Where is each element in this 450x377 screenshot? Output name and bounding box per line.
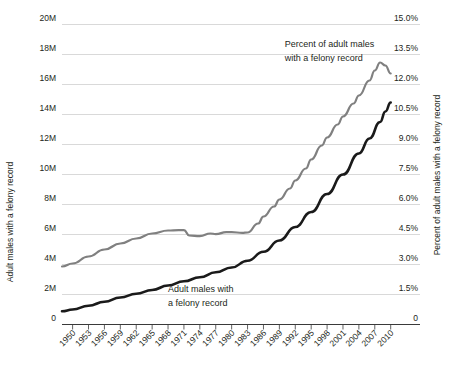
x-tick-label: 2001 <box>327 328 348 349</box>
right-tick-label: 15.0% <box>394 13 419 23</box>
x-tick-label: 1971 <box>168 328 189 349</box>
right-axis-title: Percent of adult males with a felony rec… <box>432 94 442 255</box>
left-tick-label: 8M <box>44 193 56 203</box>
x-tick-label: 1953 <box>73 328 94 349</box>
right-tick-label: 9.0% <box>399 133 419 143</box>
count-annotation-line1: Adult males with <box>168 284 234 294</box>
right-axis-tick-labels: 01.5%3.0%4.5%6.0%7.5%9.0%10.5%12.0%13.5%… <box>394 13 419 323</box>
x-tick-label: 2004 <box>343 328 364 349</box>
x-tick-label: 1959 <box>105 328 126 349</box>
x-tick-label: 1998 <box>312 328 333 349</box>
left-tick-label: 20M <box>39 13 56 23</box>
series-percent-line <box>62 63 391 267</box>
right-tick-label: 10.5% <box>394 103 419 113</box>
data-series-group <box>62 63 391 312</box>
left-tick-label: 14M <box>39 103 56 113</box>
percent-annotation-line1: Percent of adult males <box>285 39 375 49</box>
right-tick-label: 12.0% <box>394 73 419 83</box>
left-axis-title: Adult males with a felony record <box>5 161 15 282</box>
right-tick-label: 4.5% <box>399 223 419 233</box>
x-tick-label: 1950 <box>57 328 78 349</box>
left-tick-label: 2M <box>44 283 56 293</box>
gridlines-group <box>62 25 420 325</box>
x-tick-label: 1983 <box>232 328 253 349</box>
left-tick-label: 6M <box>44 223 56 233</box>
right-tick-label: 6.0% <box>399 193 419 203</box>
x-tick-label: 1974 <box>184 328 205 349</box>
left-tick-label: 4M <box>44 253 56 263</box>
left-tick-label: 16M <box>39 73 56 83</box>
count-annotation-line2: a felony record <box>168 298 228 308</box>
x-tick-label: 1989 <box>264 328 285 349</box>
series-count-line <box>62 103 391 312</box>
left-axis-tick-labels: 02M4M6M8M10M12M14M16M18M20M <box>39 13 56 323</box>
x-tick-label: 1977 <box>200 328 221 349</box>
x-tick-label: 1980 <box>216 328 237 349</box>
right-tick-label: 7.5% <box>399 163 419 173</box>
right-tick-label: 13.5% <box>394 43 419 53</box>
right-tick-label: 0 <box>413 313 418 323</box>
x-tick-label: 1965 <box>137 328 158 349</box>
left-tick-label: 12M <box>39 133 56 143</box>
x-tick-label: 2010 <box>375 328 396 349</box>
percent-annotation-line2: with a felony record <box>284 53 363 63</box>
chart-canvas: 02M4M6M8M10M12M14M16M18M20M 01.5%3.0%4.5… <box>0 0 450 377</box>
x-tick-label: 1962 <box>121 328 142 349</box>
x-tick-label: 1992 <box>280 328 301 349</box>
felony-record-chart: 02M4M6M8M10M12M14M16M18M20M 01.5%3.0%4.5… <box>0 0 450 377</box>
x-tick-label: 2007 <box>359 328 380 349</box>
x-tick-label: 1986 <box>248 328 269 349</box>
x-axis-group: 1950195319561959196219651968197119741977… <box>57 325 396 349</box>
x-tick-label: 1956 <box>89 328 110 349</box>
right-tick-label: 3.0% <box>399 253 419 263</box>
left-tick-label: 10M <box>39 163 56 173</box>
x-tick-label: 1995 <box>296 328 317 349</box>
right-tick-label: 1.5% <box>399 283 419 293</box>
left-tick-label: 0 <box>51 313 56 323</box>
left-tick-label: 18M <box>39 43 56 53</box>
x-tick-label: 1968 <box>152 328 173 349</box>
